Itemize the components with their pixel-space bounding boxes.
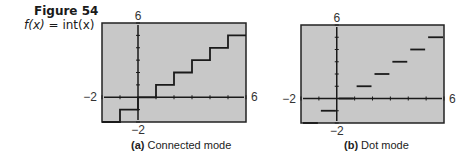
ymin-label-b: −2 (330, 124, 344, 138)
caption-a: (a) Connected mode (131, 139, 231, 151)
caption-b-tag: (b) (344, 139, 358, 151)
xmax-label-b: 6 (449, 92, 456, 106)
xmin-label-a: −2 (83, 90, 97, 104)
ymin-label-a: −2 (131, 123, 145, 137)
caption-a-text: Connected mode (148, 139, 232, 151)
caption-b: (b) Dot mode (344, 139, 409, 151)
ymax-label-a: 6 (135, 9, 142, 23)
caption-b-text: Dot mode (361, 139, 409, 151)
screen-b (301, 25, 444, 123)
ymax-label-b: 6 (333, 11, 340, 25)
plots-canvas: 6−2−266−2−26 (0, 0, 463, 159)
caption-a-tag: (a) (131, 139, 144, 151)
xmin-label-b: −2 (282, 92, 296, 106)
xmax-label-a: 6 (251, 90, 258, 104)
